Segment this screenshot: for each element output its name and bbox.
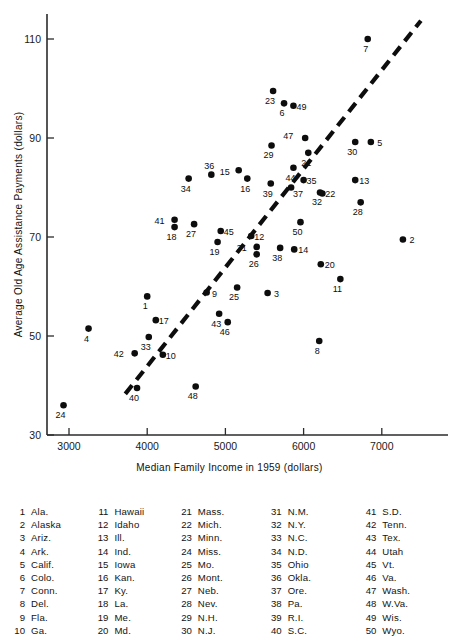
legend-entry-state: Ark. xyxy=(31,545,91,558)
legend-entry: 44Utah xyxy=(359,545,454,558)
legend-entry-number: 16 xyxy=(91,571,114,584)
legend-entry: 25Mo. xyxy=(175,558,265,571)
data-point-label: 35 xyxy=(307,176,317,186)
axes: 3050709011030004000500060007000 xyxy=(24,14,448,452)
legend-entry: 12Idaho xyxy=(91,518,174,531)
legend-entry: 4Ark. xyxy=(8,545,91,558)
x-axis-title: Median Family Income in 1959 (dollars) xyxy=(136,462,322,473)
legend-entry-number: 7 xyxy=(8,584,31,597)
legend-entry-number: 3 xyxy=(8,531,31,544)
data-point-marker xyxy=(253,244,260,251)
legend-entry-state: Idaho xyxy=(114,518,174,531)
legend-entry-state: Tenn. xyxy=(382,518,454,531)
legend-entry-number: 6 xyxy=(8,571,31,584)
legend-entry-number: 27 xyxy=(175,584,198,597)
legend-entry-state: Md. xyxy=(114,624,174,637)
data-point-marker xyxy=(224,319,231,326)
data-point-marker xyxy=(297,219,304,226)
legend-entry-state: Ind. xyxy=(114,545,174,558)
legend-entry: 14Ind. xyxy=(91,545,174,558)
legend-entry-state: N.D. xyxy=(288,545,360,558)
legend-entry: 22Mich. xyxy=(175,518,265,531)
data-point-marker xyxy=(145,334,152,341)
legend-entry-state: Calif. xyxy=(31,558,91,571)
legend-entry-number: 33 xyxy=(265,531,288,544)
data-point-label: 19 xyxy=(210,247,220,257)
data-point-marker xyxy=(352,177,359,184)
legend-entry-number: 21 xyxy=(175,505,198,518)
legend-entry-number: 12 xyxy=(91,518,114,531)
data-points: 1234567891011121314151617181920212223242… xyxy=(56,36,415,421)
legend-entry-number: 46 xyxy=(359,571,382,584)
data-point-marker xyxy=(144,293,151,300)
data-point-marker xyxy=(400,236,407,243)
legend-entry: 45Vt. xyxy=(359,558,454,571)
data-point-label: 46 xyxy=(220,327,230,337)
data-point-label: 45 xyxy=(224,227,234,237)
legend-entry-state: N.C. xyxy=(288,531,360,544)
legend-column: 31N.M.32N.Y.33N.C.34N.D.35Ohio36Okla.37O… xyxy=(265,505,360,643)
legend-entry: 43Tex. xyxy=(359,531,454,544)
legend-entry-number: 38 xyxy=(265,597,288,610)
data-point-label: 28 xyxy=(353,207,363,217)
legend-entry-state: Alaska xyxy=(31,518,91,531)
legend-entry-number: 26 xyxy=(175,571,198,584)
data-point-marker xyxy=(305,150,312,157)
legend-column: 11Hawaii12Idaho13Ill.14Ind.15Iowa16Kan.1… xyxy=(91,505,174,643)
data-point-label: 26 xyxy=(249,259,259,269)
x-tick-label: 7000 xyxy=(370,440,394,452)
legend-entry: 48W.Va. xyxy=(359,597,454,610)
data-point-marker xyxy=(368,139,375,146)
legend-entry: 31N.M. xyxy=(265,505,360,518)
legend-entry-number: 17 xyxy=(91,584,114,597)
legend-entry-number: 18 xyxy=(91,597,114,610)
data-point-marker xyxy=(302,135,309,142)
legend-entry-number: 49 xyxy=(359,611,382,624)
legend-entry-number: 44 xyxy=(359,545,382,558)
data-point-label: 30 xyxy=(347,147,357,157)
legend-entry: 37Ore. xyxy=(265,584,360,597)
legend-entry-number: 39 xyxy=(265,611,288,624)
data-point-label: 36 xyxy=(204,161,214,171)
legend-entry-state: Wis. xyxy=(382,611,454,624)
legend-entry-state: Ga. xyxy=(31,624,91,637)
legend-entry-number: 8 xyxy=(8,597,31,610)
data-point-marker xyxy=(318,261,325,268)
legend-entry-number: 31 xyxy=(265,505,288,518)
legend-entry-state: Utah xyxy=(382,545,454,558)
data-point-label: 37 xyxy=(293,189,303,199)
legend-entry-state: Ore. xyxy=(288,584,360,597)
data-point-label: 18 xyxy=(167,232,177,242)
legend-entry-number: 4 xyxy=(8,545,31,558)
legend-entry: 34N.D. xyxy=(265,545,360,558)
data-point-label: 17 xyxy=(159,316,169,326)
y-tick-label: 70 xyxy=(29,231,41,243)
legend-entry-state: Iowa xyxy=(114,558,174,571)
legend-entry-number: 23 xyxy=(175,531,198,544)
data-point-marker xyxy=(208,171,215,178)
data-point-marker xyxy=(216,310,223,317)
legend-entry-number: 1 xyxy=(8,505,31,518)
legend-entry-number: 41 xyxy=(359,505,382,518)
legend-entry: 15Iowa xyxy=(91,558,174,571)
data-point-label: 40 xyxy=(129,393,139,403)
legend-entry-number: 25 xyxy=(175,558,198,571)
data-point-marker xyxy=(281,100,288,107)
legend-entry: 40S.C. xyxy=(265,624,360,637)
data-point-label: 41 xyxy=(155,216,165,226)
data-point-label: 34 xyxy=(181,184,191,194)
legend-column: 21Mass.22Mich.23Minn.24Miss.25Mo.26Mont.… xyxy=(175,505,265,643)
legend-entry-number: 19 xyxy=(91,611,114,624)
data-point-label: 44 xyxy=(285,173,295,183)
legend-entry: 19Me. xyxy=(91,611,174,624)
legend-entry-state: Mont. xyxy=(198,571,265,584)
data-point-marker xyxy=(244,175,251,182)
legend-entry: 47Wash. xyxy=(359,584,454,597)
data-point-label: 38 xyxy=(272,253,282,263)
data-point-label: 48 xyxy=(188,391,198,401)
data-point-label: 8 xyxy=(315,346,320,356)
data-point-marker xyxy=(264,290,271,297)
scatter-plot-figure: 3050709011030004000500060007000 12345678… xyxy=(0,0,454,643)
x-tick-label: 3000 xyxy=(57,440,81,452)
legend-entry-number: 30 xyxy=(175,624,198,637)
